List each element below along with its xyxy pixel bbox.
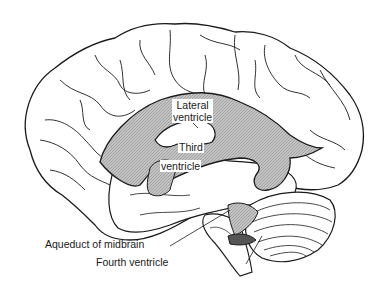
label-fourth-ventricle: Fourth ventricle — [96, 256, 168, 268]
cerebellum — [246, 192, 336, 262]
label-third-ventricle-line2: ventricle — [160, 160, 201, 172]
third-line2: ventricle — [161, 160, 200, 172]
lateral-line1: Lateral — [173, 99, 212, 111]
label-lateral-ventricle: Lateral ventricle — [172, 99, 213, 123]
label-third-ventricle-line1: Third — [178, 141, 204, 153]
fourth-text: Fourth ventricle — [96, 256, 168, 268]
label-aqueduct-of-midbrain: Aqueduct of midbrain — [45, 238, 144, 250]
third-line1: Third — [179, 141, 203, 153]
aqueduct-text: Aqueduct of midbrain — [45, 238, 144, 250]
lateral-line2: ventricle — [173, 111, 212, 123]
